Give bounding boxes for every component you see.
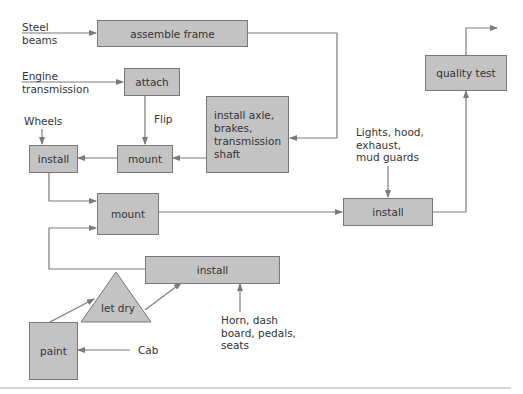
horn-label: Horn, dash board, pedals, seats [221, 314, 296, 352]
mount-lower-box: mount [97, 193, 159, 235]
let-dry-label: let dry [101, 302, 135, 314]
box-label: quality test [436, 67, 495, 79]
install-wheels-box: install [29, 145, 78, 173]
flip-label: Flip [154, 113, 173, 126]
box-label: attach [135, 76, 169, 88]
box-label: mount [128, 153, 162, 165]
box-label: install [197, 264, 228, 276]
box-label: install [372, 206, 403, 218]
mount-upper-box: mount [117, 145, 173, 173]
box-label: mount [111, 208, 145, 220]
box-label: install axle, brakes, transmission shaft [214, 109, 281, 161]
steel-beams-label: Steel beams [22, 21, 57, 46]
box-label: install [38, 153, 69, 165]
box-label: paint [40, 345, 67, 357]
paint-box: paint [29, 322, 78, 380]
let-dry-triangle [81, 272, 151, 322]
install-axle-box: install axle, brakes, transmission shaft [206, 96, 289, 173]
box-label: assemble frame [130, 28, 215, 40]
cab-label: Cab [138, 344, 158, 357]
attach-box: attach [124, 68, 180, 96]
quality-test-box: quality test [425, 55, 507, 91]
wheels-label: Wheels [24, 115, 62, 128]
assemble-frame-box: assemble frame [97, 20, 248, 47]
install-lights-box: install [343, 198, 433, 226]
install-interior-box: install [145, 256, 280, 284]
engine-transmission-label: Engine transmission [22, 70, 89, 95]
lights-label: Lights, hood, exhaust, mud guards [356, 126, 424, 164]
